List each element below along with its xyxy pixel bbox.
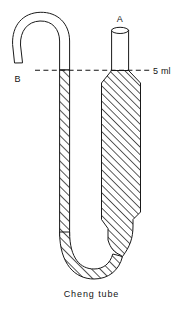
right-arm-neck [112, 27, 129, 70]
label-port-b: B [14, 74, 20, 84]
label-volume-mark: 5 ml [153, 66, 171, 76]
cheng-tube-diagram: A B 5 ml Cheng tube [0, 0, 183, 310]
right-arm-body [102, 71, 141, 257]
left-arm-hook-neck [13, 12, 70, 70]
label-port-a: A [117, 14, 123, 24]
left-arm-wall [60, 70, 70, 236]
figure-caption: Cheng tube [64, 289, 120, 299]
tube-mouth-ellipse [112, 27, 129, 33]
cheng-tube-figure: A B 5 ml Cheng tube [0, 0, 183, 310]
